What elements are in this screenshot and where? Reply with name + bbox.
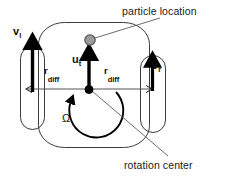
rdiff-left-label: rdiff (44, 66, 59, 83)
v-left-subscript: l (19, 31, 21, 40)
robot-kinematics-diagram: particle location rotation center vl vr … (0, 0, 228, 177)
v-right-subscript: r (158, 65, 161, 74)
rdiff-right-label: rdiff (104, 66, 119, 83)
right-wheel-velocity-label: vr (152, 60, 161, 74)
translational-velocity-label: ut (72, 54, 81, 68)
rotation-center-label: rotation center (124, 160, 193, 171)
r-left-subscript: diff (48, 75, 60, 84)
rotation-center-leader-line (92, 91, 168, 156)
particle-dot (85, 35, 95, 45)
u-subscript: t (79, 59, 82, 68)
rotation-arc (69, 92, 123, 137)
particle-location-label: particle location (122, 6, 197, 17)
r-right-subscript: diff (108, 75, 120, 84)
diagram-canvas (0, 0, 228, 177)
left-wheel-velocity-label: vl (13, 26, 21, 40)
particle-location-leader-line (95, 18, 160, 38)
angular-velocity-label: Ω (62, 113, 70, 124)
u-base: u (72, 53, 79, 65)
rotation-center-dot (85, 86, 93, 94)
